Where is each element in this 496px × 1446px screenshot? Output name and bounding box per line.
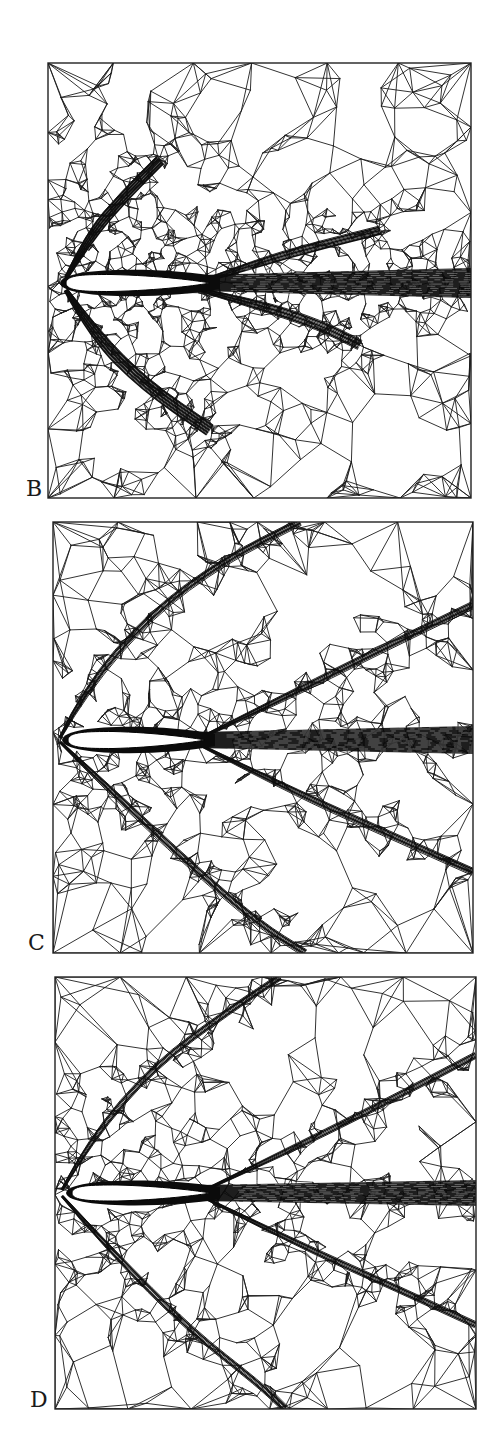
mesh-panel-d <box>55 974 489 1411</box>
lower-trailing-shock <box>200 744 475 875</box>
panel-label-b: B <box>26 478 42 500</box>
upper-trailing-shock <box>205 1052 478 1190</box>
mesh-panel-c <box>53 519 485 956</box>
wake-region <box>200 1180 476 1206</box>
mesh-figure-svg <box>0 0 496 1446</box>
mesh-figure: B C D <box>0 0 496 1446</box>
lower-trailing-shock <box>205 1197 478 1328</box>
mesh-panel-b <box>48 63 478 498</box>
upper-bow-shock <box>61 974 281 1190</box>
wake-region <box>195 726 473 754</box>
panel-label-d: D <box>30 1389 48 1411</box>
lower-bow-shock <box>59 741 307 956</box>
panel-label-c: C <box>28 932 45 954</box>
